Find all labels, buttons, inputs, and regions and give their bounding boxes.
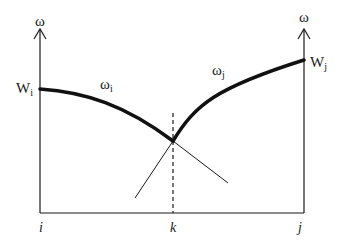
x-label-i: i [39, 220, 43, 235]
left-axis-label: ω [35, 13, 45, 29]
omega-i-label: ωi [100, 76, 113, 94]
weight-curve-diagram: ω ω Wi ωi ωj Wj i k j [0, 0, 338, 245]
left-axis: ω [34, 13, 46, 213]
omega-j-label: ωj [212, 62, 225, 80]
omega-i-curve [40, 89, 173, 141]
right-axis: ω [298, 9, 310, 213]
w-i-label: Wi [16, 80, 33, 98]
right-axis-label: ω [299, 9, 309, 25]
omega-j-curve [173, 60, 304, 141]
w-j-label: Wj [310, 54, 327, 72]
x-label-k: k [170, 220, 177, 235]
omega-j-extension-line [135, 141, 173, 198]
omega-i-extension-line [173, 141, 228, 183]
x-label-j: j [296, 220, 302, 235]
